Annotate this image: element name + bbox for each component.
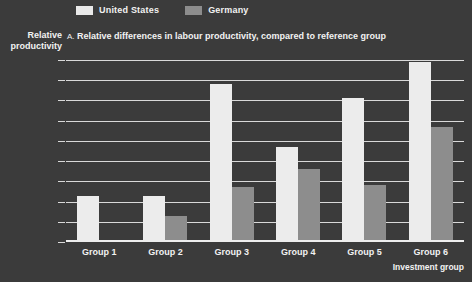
y-axis-title: Relative productivity	[0, 30, 62, 52]
x-axis-line	[66, 240, 464, 242]
bar-germany	[298, 169, 320, 242]
y-tick-mark	[58, 161, 65, 162]
bar-united-states	[143, 196, 165, 243]
bar-united-states	[77, 196, 99, 243]
bar-groups	[66, 60, 464, 242]
bar-group	[199, 60, 265, 242]
bar-group	[331, 60, 397, 242]
y-tick-mark	[58, 60, 65, 61]
x-tick-label-group-3: Group 3	[199, 247, 265, 257]
y-tick-mark	[58, 222, 65, 223]
bar-group	[398, 60, 464, 242]
bar-group	[66, 60, 132, 242]
x-tick-label-group-4: Group 4	[265, 247, 331, 257]
y-tick-mark	[58, 181, 65, 182]
x-tick-label-group-2: Group 2	[132, 247, 198, 257]
bar-germany	[165, 216, 187, 242]
chart-legend: United States Germany	[76, 5, 249, 15]
x-tick-label-group-1: Group 1	[66, 247, 132, 257]
bar-germany	[431, 127, 453, 242]
bar-group	[265, 60, 331, 242]
legend-swatch-germany	[185, 6, 202, 15]
x-tick-label-group-5: Group 5	[331, 247, 397, 257]
chart-title-text: Relative differences in labour productiv…	[77, 31, 386, 41]
y-axis-title-line1: Relative	[0, 30, 62, 41]
y-tick-mark	[58, 202, 65, 203]
x-axis-labels: Group 1Group 2Group 3Group 4Group 5Group…	[66, 247, 464, 257]
bar-united-states	[409, 62, 431, 242]
x-axis-title: Investment group	[393, 262, 464, 272]
y-tick-mark	[58, 141, 65, 142]
y-tick-mark	[58, 242, 65, 243]
bar-group	[132, 60, 198, 242]
bar-united-states	[276, 147, 298, 242]
x-tick-label-group-6: Group 6	[398, 247, 464, 257]
plot-area: 0.90.80.70.60.50.40.30.20.10	[66, 60, 464, 242]
legend-label-germany: Germany	[208, 5, 248, 15]
legend-entry-germany: Germany	[185, 5, 248, 15]
legend-swatch-united-states	[76, 6, 93, 15]
legend-entry-united-states: United States	[76, 5, 159, 15]
panel-letter: A.	[67, 32, 75, 41]
chart-title: A. Relative differences in labour produc…	[67, 31, 386, 41]
y-tick-mark	[58, 80, 65, 81]
bar-united-states	[210, 84, 232, 242]
legend-label-united-states: United States	[99, 5, 159, 15]
y-tick-mark	[58, 121, 65, 122]
bar-united-states	[342, 98, 364, 242]
bar-germany	[364, 185, 386, 242]
bar-germany	[232, 187, 254, 242]
y-tick-mark	[58, 100, 65, 101]
y-axis-title-line2: productivity	[0, 41, 62, 52]
